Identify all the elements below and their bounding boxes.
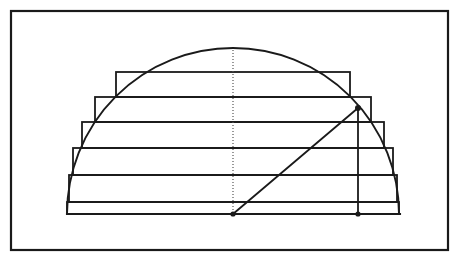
canvas-background xyxy=(0,0,459,262)
arc-point xyxy=(355,105,361,111)
figure-canvas xyxy=(0,0,459,262)
foot-point xyxy=(355,211,360,216)
center-point xyxy=(230,211,235,216)
semicircle-rectangles-diagram xyxy=(0,0,459,262)
